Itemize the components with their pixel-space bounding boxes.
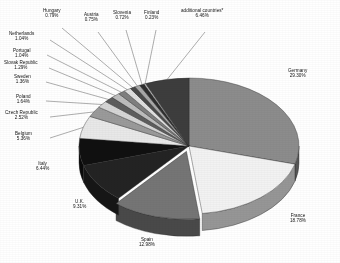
slice-label-spain: Spain 12.98%	[139, 237, 155, 248]
slice-label-value: 1.04%	[13, 53, 31, 58]
slice-label-poland: Poland 1.64%	[16, 94, 31, 105]
slice-label-additional-countries: additional countries* 6.46%	[181, 8, 223, 19]
slice-label-value: 0.75%	[84, 17, 99, 22]
leader-line-slovenia	[126, 30, 142, 85]
slice-label-italy: Italy 6.44%	[36, 161, 49, 172]
leader-line-poland	[46, 101, 103, 105]
slice-label-value: 6.44%	[36, 166, 49, 171]
slice-label-value: 12.98%	[139, 242, 155, 247]
slice-label-value: 0.23%	[144, 15, 159, 20]
slice-label-value: 0.72%	[113, 15, 131, 20]
slice-label-value: 6.46%	[181, 13, 223, 18]
leader-line-austria	[98, 32, 138, 86]
slice-label-value: 18.78%	[290, 218, 306, 223]
slice-label-portugal: Portugal 1.04%	[13, 48, 31, 59]
leader-line-belgium	[50, 127, 84, 138]
slice-label-netherlands: Netherlands 1.04%	[9, 31, 34, 42]
slice-label-slovenia: Slovenia 0.72%	[113, 10, 131, 21]
slice-label-germany: Germany 29.30%	[288, 68, 307, 79]
leader-line-czech-republic	[50, 112, 95, 117]
slice-label-austria: Austria 0.75%	[84, 12, 99, 23]
leader-line-hungary	[62, 28, 133, 88]
slice-label-slovak-republic: Slovak Republic 1.29%	[4, 60, 38, 71]
slice-label-value: 1.64%	[16, 99, 31, 104]
slice-label-value: 5.36%	[15, 136, 32, 141]
slice-label-belgium: Belgium 5.36%	[15, 131, 32, 142]
slice-label-value: 2.52%	[5, 115, 38, 120]
slice-label-value: 29.30%	[288, 73, 307, 78]
slice-label-finland: Finland 0.23%	[144, 10, 159, 21]
leader-line-sweden	[46, 82, 109, 100]
slice-label-value: 1.29%	[4, 65, 38, 70]
slice-label-czech-republic: Czech Republic 2.52%	[5, 110, 38, 121]
slice-label-value: 1.36%	[14, 79, 31, 84]
leader-line-netherlands	[50, 40, 128, 90]
leader-line-additional-countries	[167, 32, 205, 80]
pie-chart-canvas	[0, 0, 340, 263]
slice-label-value: 0.79%	[43, 13, 61, 18]
slice-label-hungary: Hungary 0.79%	[43, 8, 61, 19]
slice-label-uk: U.K. 9.31%	[73, 199, 86, 210]
slice-label-sweden: Sweden 1.36%	[14, 74, 31, 85]
slice-label-france: France 18.78%	[290, 213, 306, 224]
slice-label-value: 1.04%	[9, 36, 34, 41]
slice-label-value: 9.31%	[73, 204, 86, 209]
leader-line-slovak-republic	[49, 68, 116, 96]
leader-line-portugal	[47, 55, 122, 93]
leader-line-finland	[145, 30, 156, 84]
pie-chart-figure: additional countries* 6.46% Finland 0.23…	[0, 0, 340, 263]
